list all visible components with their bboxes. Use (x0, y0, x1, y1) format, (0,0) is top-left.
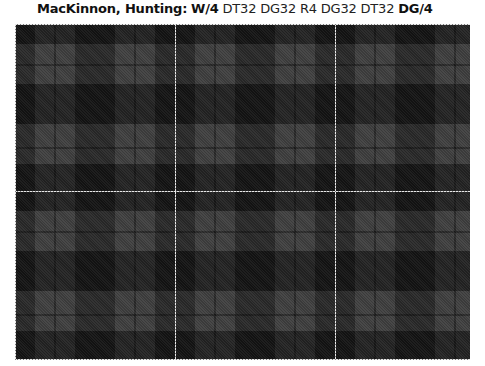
white-pinstripe-bottom-edge (15, 359, 470, 360)
tartan-title: MacKinnon, Hunting: W/4 DT32 DG32 R4 DG3… (37, 1, 433, 16)
threadcount-end: DG/4 (398, 1, 432, 16)
white-pinstripe-left-edge (15, 24, 16, 360)
white-pinstripe-top-edge (15, 24, 470, 25)
threadcount-middle: DT32 DG32 R4 DG32 DT32 (223, 1, 395, 16)
tartan-twill-texture (15, 24, 470, 360)
tartan-name: MacKinnon, Hunting: (37, 1, 187, 16)
white-pinstripe-horizontal-1 (15, 191, 470, 192)
tartan-swatch (15, 24, 470, 360)
white-pinstripe-vertical-1 (175, 24, 176, 360)
white-pinstripe-vertical-2 (335, 24, 336, 360)
threadcount-start: W/4 (191, 1, 219, 16)
